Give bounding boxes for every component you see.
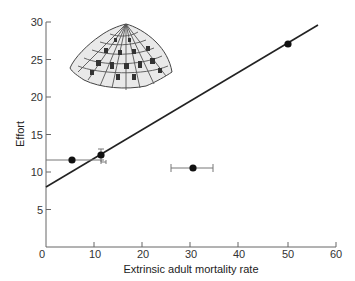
data-point: [189, 164, 196, 171]
x-tick-label: 50: [282, 248, 294, 260]
data-point: [97, 151, 104, 158]
shell-illustration: [70, 24, 172, 90]
x-axis: [46, 242, 336, 247]
x-tick-label: 10: [89, 248, 101, 260]
y-tick-label: 30: [31, 16, 43, 28]
x-tick-label: 20: [137, 248, 149, 260]
y-tick-label: 25: [31, 54, 43, 66]
data-point: [284, 40, 291, 47]
y-tick-label: 15: [31, 129, 43, 141]
x-axis-title: Extrinsic adult mortality rate: [123, 263, 258, 275]
chart: 30 25 20 15 10 5 0 10 20 30 40 50 60 Ext…: [0, 0, 355, 281]
x-tick-label: 30: [185, 248, 197, 260]
y-tick-label: 5: [37, 204, 43, 216]
y-tick-label: 10: [31, 166, 43, 178]
data-point: [68, 156, 75, 163]
x-tick-label: 60: [330, 248, 342, 260]
y-axis: [46, 22, 51, 247]
x-tick-label: 40: [233, 248, 245, 260]
y-axis-title: Effort: [14, 121, 26, 147]
y-tick-label: 20: [31, 91, 43, 103]
x-tick-label: 0: [39, 248, 45, 260]
